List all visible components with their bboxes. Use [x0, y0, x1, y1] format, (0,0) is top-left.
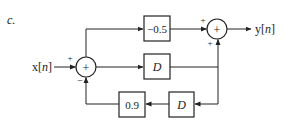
- summer-1: +: [76, 57, 96, 77]
- gain-feedback-value: 0.9: [125, 99, 139, 111]
- delay-feedback-label: D: [176, 98, 186, 112]
- summer-1-symbol: +: [83, 61, 90, 75]
- block-diagram: c. x[n] + + − −0.5 D + + + y[n] D 0.9: [0, 0, 285, 128]
- top-branch-line: [86, 29, 143, 57]
- figure-label: c.: [7, 13, 15, 27]
- summer-2-symbol: +: [214, 23, 221, 37]
- delay-mid-label: D: [152, 60, 162, 74]
- summer-2: +: [207, 19, 227, 39]
- feedback-to-summer1-line: [86, 78, 119, 105]
- summer-2-plus-bottom: +: [207, 38, 212, 48]
- output-label: y[n]: [255, 22, 275, 36]
- input-label: x[n]: [32, 60, 52, 74]
- summer-1-minus-sign: −: [77, 75, 83, 86]
- summer-2-plus-top: +: [200, 15, 205, 25]
- gain-top-value: −0.5: [147, 23, 167, 35]
- summer-1-plus-sign: +: [67, 53, 72, 63]
